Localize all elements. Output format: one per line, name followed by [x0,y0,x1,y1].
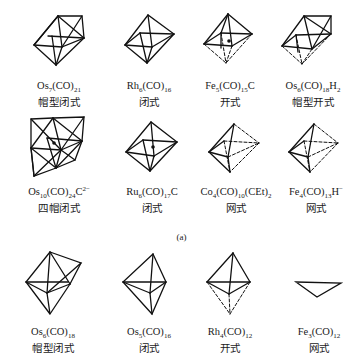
cluster-formula: Fe3(CO)12 [274,325,363,338]
cluster-type: 开式 [185,95,275,109]
cluster-label: Fe5(CO)15C 开式 [185,79,275,109]
cluster-label: Fe4(CO)13H− 网式 [271,185,361,215]
cluster-label: Rh6(CO)16 闭式 [104,79,194,109]
octahedron-icon [125,15,174,63]
cluster-label: Os6(CO)18H2 帽型开式 [268,79,358,109]
tetracapped-octahedron-icon [31,117,84,176]
cluster-formula: Fe4(CO)13H− [271,185,361,198]
cluster-formula: Rh4(CO)12 [185,325,275,338]
arachno-octahedron-icon [209,124,259,172]
capped-square-pyramid-icon [282,16,331,64]
cluster-label: Fe3(CO)12 网式 [274,325,363,355]
cluster-label: Co4(CO)10(CEt)2 网式 [191,185,281,215]
cluster-formula: Co4(CO)10(CEt)2 [191,185,281,198]
cluster-type: 网式 [274,341,363,355]
cluster-type: 闭式 [104,341,194,355]
cluster-formula: Fe5(CO)15C [185,79,275,92]
cluster-label: Os7(CO)21 帽型闭式 [14,79,104,109]
trigonal-bipyramid-icon [123,254,166,314]
cluster-formula: Os10(CO)24C2− [14,185,104,198]
arachno-octahedron-icon [289,124,338,172]
cluster-label: Rh4(CO)12 开式 [185,325,275,355]
figure-caption: (a) [0,232,363,242]
cluster-formula: Os6(CO)18H2 [268,79,358,92]
cluster-formula: Os5(CO)16 [104,325,194,338]
cluster-label: Os6(CO)18 帽型闭式 [8,325,98,355]
cluster-type: 帽型闭式 [14,95,104,109]
cluster-formula: Ru6(CO)17C [107,185,197,198]
cluster-label: Os10(CO)24C2− 四帽闭式 [14,185,104,215]
cluster-type: 帽型开式 [268,95,358,109]
triangle-icon [296,282,341,297]
capped-octahedron-icon [34,16,84,65]
cluster-type: 闭式 [104,95,194,109]
cluster-label: Os5(CO)16 闭式 [104,325,194,355]
cluster-type: 帽型闭式 [8,341,98,355]
cluster-type: 闭式 [107,201,197,215]
cluster-formula: Os7(CO)21 [14,79,104,92]
cluster-formula: Rh6(CO)16 [104,79,194,92]
cluster-type: 四帽闭式 [14,201,104,215]
cluster-label: Ru6(CO)17C 闭式 [107,185,197,215]
cluster-diagrams [0,0,363,360]
cluster-type: 开式 [185,341,275,355]
square-pyramid-icon [204,14,252,63]
capped-trigonal-bipyramid-icon [26,252,81,314]
cluster-type: 网式 [271,201,361,215]
nido-trigonal-bipyramid-icon [207,253,250,314]
octahedron-carbide-icon [126,122,177,171]
cluster-type: 网式 [191,201,281,215]
cluster-formula: Os6(CO)18 [8,325,98,338]
